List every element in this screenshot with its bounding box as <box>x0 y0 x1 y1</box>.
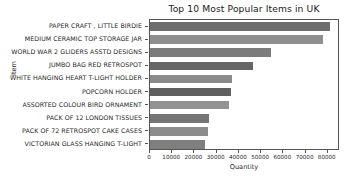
x-axis-tick-mark <box>216 150 217 153</box>
x-axis-tick-label: 20000 <box>185 154 203 160</box>
bar-row <box>150 112 338 125</box>
y-axis-tick-label: PACK OF 12 LONDON TISSUES <box>46 111 142 124</box>
x-axis-tick-label: 30000 <box>207 154 225 160</box>
x-axis-tick-mark <box>193 150 194 153</box>
bar <box>150 127 208 136</box>
y-axis-tick-mark <box>145 117 148 118</box>
y-axis-tick-label: POPCORN HOLDER <box>82 85 142 98</box>
bar-row <box>150 59 338 72</box>
bar-row <box>150 138 338 151</box>
y-axis-tick-label: VICTORIAN GLASS HANGING T-LIGHT <box>25 137 142 150</box>
y-axis-tick-mark <box>145 130 148 131</box>
y-axis-tick-mark <box>145 91 148 92</box>
bar-row <box>150 99 338 112</box>
chart-figure: Top 10 Most Popular Items in UK Item PAP… <box>0 0 359 185</box>
bar <box>150 62 253 71</box>
x-axis-tick-mark <box>171 150 172 153</box>
x-axis-tick-mark <box>260 150 261 153</box>
y-axis-tick-label: MEDIUM CERAMIC TOP STORAGE JAR <box>25 32 142 45</box>
bar-row <box>150 33 338 46</box>
plot-area <box>149 19 339 150</box>
y-axis-tick-mark <box>145 26 148 27</box>
y-axis-tick-label: WHITE HANGING HEART T-LIGHT HOLDER <box>10 71 142 84</box>
x-axis-tick-label: 0 <box>147 154 151 160</box>
y-axis-tick-mark <box>145 65 148 66</box>
bar-row <box>150 46 338 59</box>
y-axis-tick-label: JUMBO BAG RED RETROSPOT <box>49 58 142 71</box>
bar <box>150 101 229 110</box>
bar-series <box>150 20 338 149</box>
bar <box>150 22 330 31</box>
y-axis-tick-mark <box>145 52 148 53</box>
y-axis-tick-label: WORLD WAR 2 GLIDERS ASSTD DESIGNS <box>11 45 142 58</box>
bar-row <box>150 125 338 138</box>
chart-title: Top 10 Most Popular Items in UK <box>149 3 339 14</box>
bar <box>150 114 209 123</box>
x-axis-tick-mark <box>149 150 150 153</box>
x-axis-tick-mark <box>327 150 328 153</box>
y-axis-tick-mark <box>145 104 148 105</box>
x-axis-tick-label: 40000 <box>229 154 247 160</box>
x-axis-tick-label: 50000 <box>251 154 269 160</box>
bar <box>150 48 271 57</box>
y-axis-tick-mark <box>145 143 148 144</box>
x-axis-tick-mark <box>305 150 306 153</box>
bar-row <box>150 85 338 98</box>
x-axis-tick-label: 70000 <box>296 154 314 160</box>
x-axis-tick-mark <box>282 150 283 153</box>
bar-row <box>150 20 338 33</box>
x-axis-tick-label: 80000 <box>318 154 336 160</box>
bar <box>150 88 231 97</box>
bar <box>150 75 232 84</box>
x-axis-tick-label: 10000 <box>162 154 180 160</box>
x-axis-title: Quantity <box>149 163 339 171</box>
x-axis-tick-mark <box>238 150 239 153</box>
bar <box>150 35 323 44</box>
y-axis-tick-label: PACK OF 72 RETROSPOT CAKE CASES <box>22 124 142 137</box>
y-axis-tick-mark <box>145 78 148 79</box>
y-axis-tick-label: PAPER CRAFT , LITTLE BIRDIE <box>49 19 142 32</box>
y-axis-tick-mark <box>145 39 148 40</box>
y-axis-tick-labels: PAPER CRAFT , LITTLE BIRDIEMEDIUM CERAMI… <box>0 19 145 150</box>
y-axis-tick-label: ASSORTED COLOUR BIRD ORNAMENT <box>22 98 142 111</box>
bar <box>150 140 205 149</box>
bar-row <box>150 72 338 85</box>
x-axis-tick-label: 60000 <box>273 154 291 160</box>
